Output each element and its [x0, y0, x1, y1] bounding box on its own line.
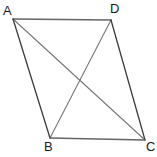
- diagonal-BD: [50, 20, 111, 138]
- vertex-label-A: A: [3, 4, 12, 17]
- parallelogram-svg: [0, 0, 157, 157]
- edge-AD: [13, 19, 111, 20]
- geometry-figure: A D B C: [0, 0, 157, 157]
- vertex-label-D: D: [110, 2, 119, 15]
- vertex-label-B: B: [44, 140, 53, 153]
- vertex-label-C: C: [146, 140, 155, 153]
- edge-DC: [111, 20, 145, 140]
- diagonal-AC: [13, 19, 145, 140]
- edge-AB: [13, 19, 50, 138]
- edge-BC: [50, 138, 145, 140]
- diagonal-group: [13, 19, 145, 140]
